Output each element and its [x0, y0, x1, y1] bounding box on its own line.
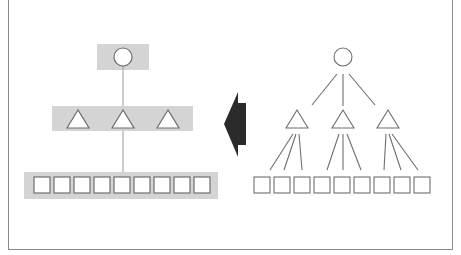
- square-icon: [174, 177, 190, 193]
- tree-edge: [349, 74, 375, 105]
- tree-edge: [347, 134, 361, 170]
- square-icon: [314, 177, 330, 193]
- leaf-squares: [34, 177, 210, 193]
- tree-edge: [392, 134, 418, 170]
- square-icon: [94, 177, 110, 193]
- leaf-squares: [254, 177, 430, 193]
- square-icon: [414, 177, 430, 193]
- square-icon: [134, 177, 150, 193]
- square-icon: [354, 177, 370, 193]
- square-icon: [394, 177, 410, 193]
- square-icon: [374, 177, 390, 193]
- triangle-icon: [286, 110, 308, 128]
- tree-edge: [312, 74, 337, 105]
- square-icon: [254, 177, 270, 193]
- tree-edge: [384, 134, 386, 170]
- triangle-icon: [377, 110, 399, 128]
- square-icon: [294, 177, 310, 193]
- square-icon: [154, 177, 170, 193]
- triangle-icon: [332, 110, 354, 128]
- square-icon: [274, 177, 290, 193]
- left-arrow-icon: [224, 92, 246, 157]
- square-icon: [334, 177, 350, 193]
- root-circle-icon: [114, 48, 132, 66]
- tree-edge: [389, 134, 401, 170]
- square-icon: [114, 177, 130, 193]
- tree-view: [254, 48, 430, 193]
- square-icon: [54, 177, 70, 193]
- square-icon: [194, 177, 210, 193]
- hierarchy-diagram: [0, 0, 461, 255]
- tree-edge: [299, 134, 302, 170]
- tree-edge: [327, 134, 339, 170]
- root-circle-icon: [334, 48, 352, 66]
- square-icon: [74, 177, 90, 193]
- square-icon: [34, 177, 50, 193]
- layered-view: [24, 44, 218, 199]
